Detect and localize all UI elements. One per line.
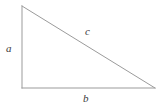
triangle-shape <box>0 0 162 109</box>
side-label-c: c <box>85 26 90 37</box>
side-label-b: b <box>83 93 89 104</box>
triangle-side-c-hypotenuse-line <box>22 6 155 88</box>
side-label-a: a <box>6 43 12 54</box>
right-triangle-figure: a c b <box>0 0 162 109</box>
